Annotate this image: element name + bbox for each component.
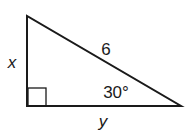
right-triangle-diagram: x 6 30° y	[0, 0, 192, 138]
hypotenuse-label: 6	[101, 40, 110, 59]
angle-label: 30°	[103, 83, 129, 102]
vertical-leg-label: x	[7, 53, 17, 72]
right-angle-marker	[28, 88, 46, 106]
horizontal-leg-label: y	[98, 112, 109, 131]
